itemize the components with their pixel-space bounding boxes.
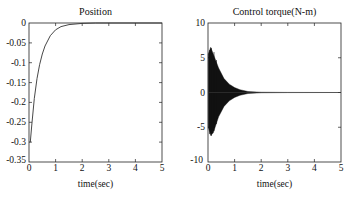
- x-tick-label: 5: [156, 163, 168, 173]
- x-tick-label: 1: [229, 163, 241, 173]
- y-tick-label: -5: [179, 122, 205, 132]
- y-tick-label: 0: [0, 18, 26, 28]
- y-tick-label: -0.1: [0, 58, 26, 68]
- position-curve: [30, 23, 163, 142]
- x-axis-label: time(sec): [208, 179, 341, 189]
- x-tick-label: 4: [308, 163, 320, 173]
- y-tick-label: -0.05: [0, 38, 26, 48]
- x-tick-label: 0: [202, 163, 214, 173]
- position-chart: Position 0 -0.05 -0.1 -0.15 -0.2 -0.25 -…: [0, 0, 174, 198]
- x-tick-label: 1: [50, 163, 62, 173]
- y-tick-label: 10: [179, 18, 205, 28]
- torque-oscillation: [208, 47, 341, 135]
- x-tick-label: 2: [255, 163, 267, 173]
- x-tick-label: 3: [103, 163, 115, 173]
- x-tick-label: 0: [23, 163, 35, 173]
- x-tick-label: 2: [76, 163, 88, 173]
- y-tick-label: -0.25: [0, 117, 26, 127]
- y-tick-label: -0.3: [0, 137, 26, 147]
- y-tick-label: -0.15: [0, 78, 26, 88]
- x-tick-label: 5: [335, 163, 347, 173]
- x-axis-label: time(sec): [29, 179, 162, 189]
- y-tick-label: 0: [179, 88, 205, 98]
- y-tick-label: -10: [177, 155, 203, 165]
- y-tick-label: 5: [179, 53, 205, 63]
- y-tick-label: -0.2: [0, 97, 26, 107]
- control-torque-chart: Control torque(N-m) 10 5 0 -5 -10 0 1 2 …: [174, 0, 348, 198]
- x-tick-label: 3: [282, 163, 294, 173]
- x-tick-label: 4: [129, 163, 141, 173]
